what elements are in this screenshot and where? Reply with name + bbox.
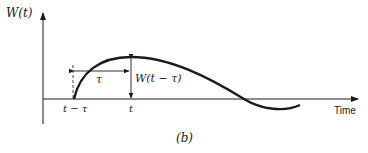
figure-caption: (b) [176,131,193,145]
tick-label-t: t [129,103,133,114]
value-label: W(t − τ) [135,72,182,85]
tick-label-t-minus-tau: t − τ [63,103,87,114]
w-curve [74,57,300,109]
x-axis-label: Time [334,105,356,116]
y-axis-label: W(t) [6,6,33,20]
tau-label: τ [96,73,102,86]
